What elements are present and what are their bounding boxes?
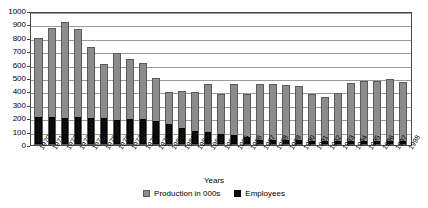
bar-group	[97, 13, 110, 145]
bar-group	[306, 13, 319, 145]
bar-production	[74, 29, 82, 145]
bars-layer	[31, 13, 411, 145]
bar-group	[32, 13, 45, 145]
bar-group	[188, 13, 201, 145]
legend-label: Production in 000s	[154, 189, 220, 198]
legend-swatch-production	[143, 190, 150, 197]
legend-label: Employees	[245, 189, 285, 198]
bar-group	[280, 13, 293, 145]
bar-group	[371, 13, 384, 145]
bar-group	[201, 13, 214, 145]
bar-chart: 01002003004005006007008009001000 1970197…	[0, 0, 428, 208]
bar-group	[241, 13, 254, 145]
bar-production	[100, 64, 108, 145]
bar-group	[227, 13, 240, 145]
legend-entry: Employees	[234, 189, 285, 198]
bar-group	[175, 13, 188, 145]
bar-employees	[35, 117, 41, 144]
chart-legend: Production in 000sEmployees	[0, 189, 428, 198]
bar-production	[126, 59, 134, 145]
y-axis-tick-label: 1000	[8, 8, 26, 16]
bar-group	[45, 13, 58, 145]
bar-group	[332, 13, 345, 145]
y-axis-tick-label: 100	[13, 129, 26, 137]
bar-production	[113, 53, 121, 145]
bar-group	[358, 13, 371, 145]
bar-group	[267, 13, 280, 145]
bar-production	[34, 38, 42, 145]
bar-production	[87, 47, 95, 145]
bar-group	[136, 13, 149, 145]
legend-entry: Production in 000s	[143, 189, 220, 198]
bar-group	[293, 13, 306, 145]
y-axis-tick-label: 0	[22, 142, 26, 150]
y-axis-tick-label: 300	[13, 102, 26, 110]
y-axis-tick-label: 700	[13, 48, 26, 56]
bar-group	[71, 13, 84, 145]
bar-group	[214, 13, 227, 145]
y-axis-tick-label: 200	[13, 115, 26, 123]
y-axis-tick-label: 500	[13, 75, 26, 83]
plot-area	[30, 12, 412, 146]
bar-group	[110, 13, 123, 145]
y-axis-tick-label: 900	[13, 21, 26, 29]
bar-group	[162, 13, 175, 145]
y-axis-tick-label: 600	[13, 62, 26, 70]
bar-group	[345, 13, 358, 145]
bar-group	[397, 13, 410, 145]
bar-production	[48, 28, 56, 145]
y-axis: 01002003004005006007008009001000	[0, 0, 30, 158]
bar-production	[139, 63, 147, 145]
bar-group	[123, 13, 136, 145]
bar-group	[384, 13, 397, 145]
bar-production	[61, 22, 69, 145]
bar-group	[149, 13, 162, 145]
bar-group	[58, 13, 71, 145]
bar-group	[84, 13, 97, 145]
x-axis-title: Years	[0, 176, 428, 185]
legend-swatch-employees	[234, 190, 241, 197]
y-axis-tick-label: 400	[13, 88, 26, 96]
bar-group	[254, 13, 267, 145]
bar-group	[319, 13, 332, 145]
y-axis-tick-label: 800	[13, 35, 26, 43]
